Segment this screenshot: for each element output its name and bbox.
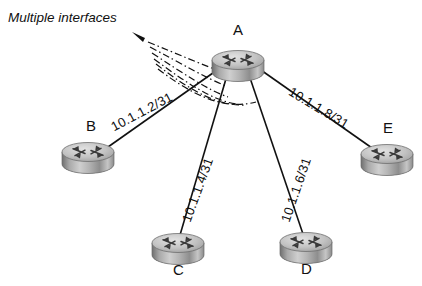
router-node-b[interactable] (62, 143, 114, 174)
node-label-b: B (86, 118, 96, 133)
node-label-d: D (301, 261, 312, 276)
annotation-arrowhead (132, 32, 145, 42)
router-node-c[interactable] (152, 234, 204, 265)
router-node-a[interactable] (212, 51, 264, 82)
node-label-c: C (173, 262, 184, 277)
node-label-a: A (233, 22, 243, 37)
router-node-e[interactable] (361, 145, 413, 176)
diagram-canvas (0, 0, 422, 286)
node-label-e: E (383, 120, 393, 135)
router-node-d[interactable] (280, 233, 332, 264)
network-diagram: Multiple interfaces A B C D E 10.1.1.2/3… (0, 0, 422, 286)
link-lines (108, 68, 372, 235)
multiple-interfaces-annotation: Multiple interfaces (8, 10, 117, 25)
